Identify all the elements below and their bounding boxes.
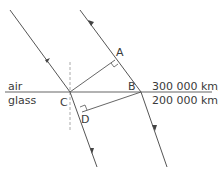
medium-top-label: air xyxy=(8,81,22,92)
point-a-label: A xyxy=(116,47,124,58)
right-angle-a xyxy=(111,63,118,67)
left-refracted-ray xyxy=(70,92,97,167)
wavefront-bd xyxy=(82,92,141,112)
arrow-icon xyxy=(90,148,94,154)
speed-top-label: 300 000 km/s xyxy=(152,81,218,92)
point-c-label: C xyxy=(60,97,68,108)
right-angle-d xyxy=(80,105,87,110)
arrow-icon xyxy=(88,20,94,26)
speed-bottom-label: 200 000 km/s xyxy=(152,95,218,106)
point-b-label: B xyxy=(128,81,136,92)
point-d-label: D xyxy=(81,114,89,125)
medium-bottom-label: glass xyxy=(8,95,36,106)
wavefront-ca xyxy=(70,60,115,92)
